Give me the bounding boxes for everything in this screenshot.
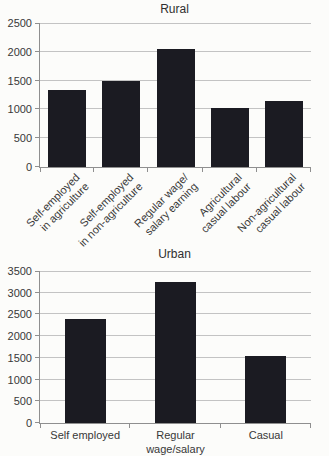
y-axis-tick [35,51,39,52]
x-category-label: Regular wage/salary earning [131,171,200,240]
rural-chart-title: Rural [39,2,310,16]
x-category-label: Casual [221,429,311,443]
y-tick-label: 1000 [1,374,32,385]
urban-plot-area: 0500100015002000250030003500Self employe… [39,271,311,424]
y-axis-tick [35,379,39,380]
y-tick-label: 3000 [1,287,32,298]
bar [157,49,195,167]
y-axis-tick [35,108,39,109]
bar [211,108,249,167]
x-category-label-line: Regular [130,429,220,443]
urban-bar-chart: Urban 0500100015002000250030003500Self e… [0,246,329,456]
x-axis-tick [310,424,311,428]
urban-chart-title: Urban [39,247,310,261]
x-category-label: Self employed [40,429,130,443]
bar [48,90,86,167]
y-tick-label: 500 [1,396,32,407]
y-tick-label: 3500 [1,266,32,277]
gridline [40,271,311,272]
x-axis-tick [147,168,148,172]
bar [102,81,140,167]
y-axis-tick [35,23,39,24]
y-axis-tick [35,271,39,272]
y-axis-tick [35,166,39,167]
bar [65,319,106,423]
rural-bar-chart: Rural 05001000150020002500Self-employedi… [0,0,329,246]
y-axis-tick [35,357,39,358]
y-tick-label: 2500 [1,309,32,320]
x-category-label-line: Self employed [40,429,130,443]
x-category-label: Regularwage/salary [130,429,220,456]
y-axis-tick [35,313,39,314]
y-tick-label: 1000 [1,104,32,115]
y-tick-label: 2500 [1,18,32,29]
bar [265,101,303,167]
y-tick-label: 0 [1,162,32,173]
x-category-label-line: Casual [221,429,311,443]
y-axis-tick [35,335,39,336]
x-axis-tick [93,168,94,172]
y-axis-tick [35,422,39,423]
bar [245,356,286,423]
x-axis-tick [202,168,203,172]
y-tick-label: 1500 [1,75,32,86]
y-tick-label: 2000 [1,331,32,342]
y-tick-label: 500 [1,133,32,144]
x-axis-tick [129,424,130,428]
rural-plot-area: 05001000150020002500Self-employedin agri… [39,23,311,168]
x-axis-tick [40,168,41,172]
gridline [40,23,311,24]
x-category-label-line: wage/salary [130,443,220,456]
x-axis-tick [256,168,257,172]
y-axis-tick [35,137,39,138]
x-axis-tick [310,168,311,172]
y-axis-tick [35,292,39,293]
bar [155,282,196,423]
y-axis-tick [35,80,39,81]
y-tick-label: 2000 [1,46,32,57]
y-tick-label: 0 [1,418,32,429]
y-axis-tick [35,400,39,401]
y-tick-label: 1500 [1,352,32,363]
x-axis-tick [40,424,41,428]
x-axis-tick [220,424,221,428]
